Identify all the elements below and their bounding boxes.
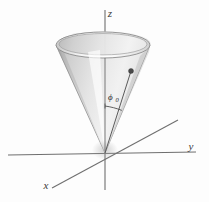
surface-point-marker — [129, 69, 134, 74]
x-axis-label: x — [43, 179, 49, 191]
z-axis-label: z — [107, 7, 113, 19]
angle-label-phi: ϕ — [108, 92, 113, 102]
y-axis-label: y — [188, 140, 194, 152]
cone-figure-container: z y x ϕ 0 — [0, 0, 209, 202]
cone-figure-svg: z y x ϕ 0 — [0, 0, 209, 202]
